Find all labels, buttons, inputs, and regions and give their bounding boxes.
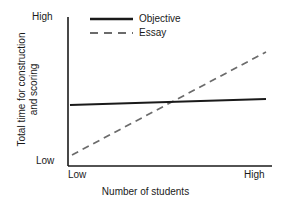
x-axis-title: Number of students	[0, 186, 291, 198]
y-axis-title-line-1: Total time for construction	[16, 10, 28, 170]
x-axis-tick-high: High	[244, 169, 265, 181]
legend-label-essay: Essay	[139, 27, 166, 39]
x-axis-tick-low: Low	[68, 169, 86, 181]
line-chart: Total time for construction and scoring …	[0, 0, 291, 204]
y-axis-title: Total time for construction and scoring	[16, 10, 39, 170]
y-axis-tick-low: Low	[36, 155, 54, 167]
y-axis-tick-high: High	[32, 11, 53, 23]
legend-label-objective: Objective	[139, 13, 181, 25]
y-axis-title-line-2: and scoring	[27, 10, 39, 170]
